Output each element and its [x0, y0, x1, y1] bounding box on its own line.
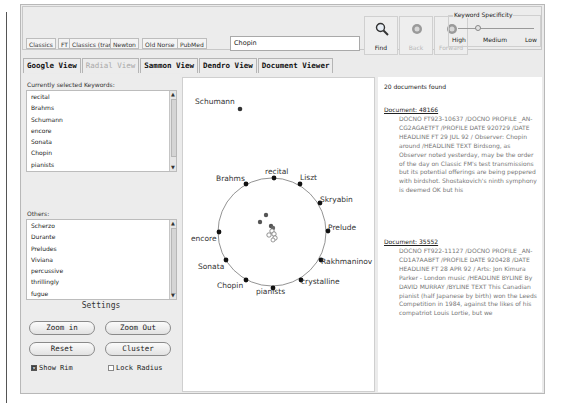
specificity-slider-track[interactable]	[458, 28, 534, 29]
tab-google-view[interactable]: Google View	[23, 58, 81, 73]
view-tabs: Google View Radial View Sammon View Dend…	[23, 58, 334, 73]
specificity-slider-handle[interactable]	[475, 25, 481, 31]
tab-radial-view[interactable]: Radial View	[82, 58, 140, 73]
tab-sammon-view[interactable]: Sammon View	[140, 58, 198, 73]
document-link[interactable]: Document: 35552	[384, 238, 438, 245]
keyword-specificity-title: Keyword Specificity	[453, 11, 513, 18]
search-input[interactable]: Chopin	[230, 36, 360, 51]
scroll-down-icon[interactable]: ▼	[170, 292, 176, 299]
list-item[interactable]: Schumann	[27, 114, 176, 125]
left-panel: Currently selected Keywords: recital Bra…	[22, 74, 180, 392]
outlier-label: Schumann	[195, 97, 235, 106]
document-snippet: DOCNO FT922-11127 /DOCNO PROFILE _AN-CD1…	[399, 247, 539, 318]
others-scrollbar[interactable]: ▲ ▼	[169, 220, 176, 299]
list-item[interactable]: percussive	[27, 265, 176, 276]
rim-label: encore	[191, 234, 217, 243]
find-button[interactable]: Find	[364, 16, 398, 55]
rim-label: recital	[265, 167, 288, 176]
list-item[interactable]: Scherzo	[27, 220, 176, 231]
list-item[interactable]: Preludes	[27, 243, 176, 254]
scroll-down-icon[interactable]: ▼	[170, 164, 176, 171]
documents-count: 20 documents found	[384, 83, 446, 90]
window-edge	[6, 12, 7, 403]
list-item[interactable]: Sonata	[27, 136, 176, 147]
tab-document-viewer[interactable]: Document Viewer	[258, 58, 334, 73]
rim-label: Sonata	[198, 262, 224, 271]
tick-low: Low	[525, 36, 537, 43]
document-link[interactable]: Document: 48166	[384, 106, 438, 113]
zoom-in-button[interactable]: Zoom in	[29, 321, 95, 335]
keyword-node[interactable]	[238, 107, 243, 112]
selected-keywords-list[interactable]: recital Brahms Schumann encore Sonata Ch…	[26, 90, 177, 172]
rim-label: Brahms	[216, 174, 245, 183]
lock-radius-label: Lock Radius	[116, 364, 162, 372]
document-nodes	[258, 213, 277, 242]
rim-label: Skryabin	[320, 195, 353, 204]
back-icon	[411, 23, 423, 35]
tab-dendro-view[interactable]: Dendro View	[199, 58, 257, 73]
list-item[interactable]: Chopin	[27, 147, 176, 158]
scroll-up-icon[interactable]: ▲	[170, 220, 176, 227]
rim-label: Prelude	[328, 223, 356, 232]
document-snippet: DOCNO FT923-10637 /DOCNO PROFILE _AN-CG2…	[399, 115, 539, 195]
back-label: Back	[400, 44, 432, 51]
magnifier-icon	[375, 22, 389, 36]
other-keywords-list[interactable]: Scherzo Durante Preludes Viviana percuss…	[26, 219, 177, 300]
corpus-old-norse[interactable]: Old Norse	[142, 38, 178, 49]
scroll-thumb[interactable]	[171, 99, 177, 157]
lock-radius-checkbox[interactable]: Lock Radius	[108, 364, 162, 372]
list-item[interactable]: Durante	[27, 231, 176, 242]
show-rim-checkbox[interactable]: × Show Rim	[31, 364, 73, 372]
rim-label: Rakhmaninov	[321, 257, 372, 266]
zoom-out-button[interactable]: Zoom Out	[105, 321, 171, 335]
checkbox-checked-icon: ×	[31, 365, 37, 371]
radial-view-canvas[interactable]: Schumann recital Liszt Skryabin Prelude …	[182, 77, 375, 392]
rim-label: crystalline	[301, 277, 340, 286]
corpus-pubmed[interactable]: PubMed	[177, 38, 207, 49]
rim-label: pianists	[256, 287, 285, 296]
find-label: Find	[365, 44, 397, 51]
corpus-classics[interactable]: Classics	[26, 38, 56, 49]
back-button[interactable]: Back	[399, 16, 433, 55]
selected-keywords-label: Currently selected Keywords:	[27, 81, 115, 88]
rim-label: Chopin	[217, 281, 243, 290]
list-item[interactable]: thrillingly	[27, 276, 176, 287]
tick-medium: Medium	[483, 36, 507, 43]
reset-button[interactable]: Reset	[29, 342, 95, 356]
corpus-newton[interactable]: Newton	[110, 38, 139, 49]
list-item[interactable]: fugue	[27, 288, 176, 299]
selected-scrollbar[interactable]: ▲ ▼	[169, 91, 176, 171]
list-item[interactable]: recital	[27, 91, 176, 102]
rim-label: Liszt	[300, 173, 317, 182]
tick-high: High	[452, 36, 466, 43]
others-label: Others:	[27, 210, 49, 217]
cluster-button[interactable]: Cluster	[105, 342, 171, 356]
scroll-up-icon[interactable]: ▲	[170, 91, 176, 98]
checkbox-unchecked-icon	[108, 365, 114, 371]
list-item[interactable]: pianists	[27, 159, 176, 170]
documents-panel: 20 documents found Document: 48166 DOCNO…	[378, 77, 542, 392]
scroll-thumb[interactable]	[171, 228, 177, 294]
list-item[interactable]: Brahms	[27, 102, 176, 113]
keyword-specificity-group: Keyword Specificity High Medium Low	[448, 15, 541, 47]
list-item[interactable]: encore	[27, 125, 176, 136]
list-item[interactable]: Viviana	[27, 254, 176, 265]
show-rim-label: Show Rim	[39, 364, 73, 372]
settings-title: Settings	[22, 301, 180, 310]
